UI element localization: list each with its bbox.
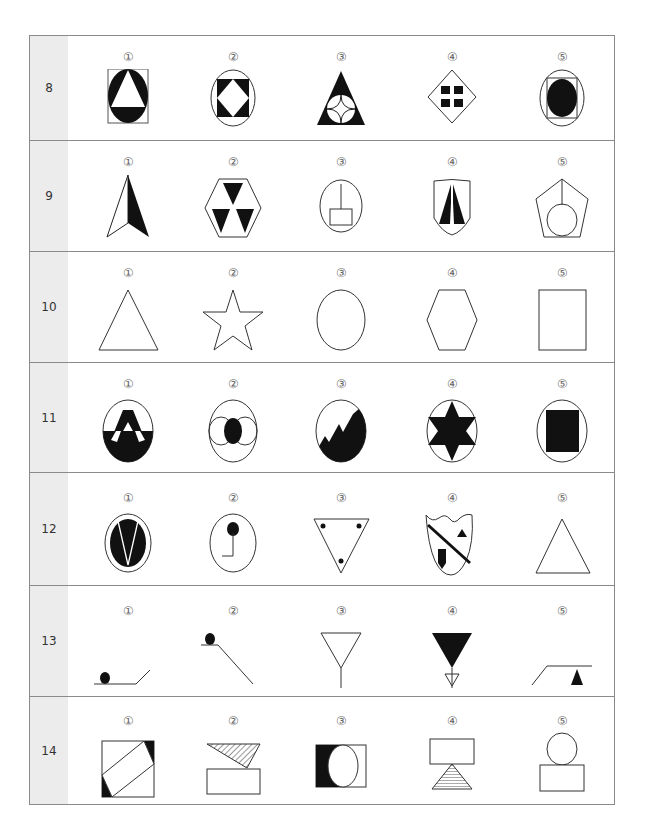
option-1[interactable]: ①	[78, 697, 178, 804]
hexagon-with-three-triangles-icon	[183, 177, 283, 239]
option-3[interactable]: ③	[291, 252, 391, 362]
option-marker: ③	[291, 604, 391, 618]
question-number: 14	[30, 697, 68, 804]
option-2[interactable]: ②	[183, 473, 283, 585]
option-marker: ③	[291, 714, 391, 728]
option-2[interactable]: ②	[183, 586, 283, 696]
option-4[interactable]: ④	[402, 586, 502, 696]
option-5[interactable]: ⑤	[512, 697, 612, 804]
inverted-triangle-three-dots-icon	[291, 517, 391, 575]
question-number: 8	[30, 36, 68, 140]
question-number: 12	[30, 473, 68, 585]
option-marker: ④	[402, 266, 502, 280]
option-1[interactable]: ①	[78, 586, 178, 696]
option-4[interactable]: ④	[402, 36, 502, 140]
option-marker: ①	[78, 266, 178, 280]
question-row-8: 8 ① ② ③ ④ ⑤	[30, 36, 614, 140]
option-5[interactable]: ⑤	[512, 363, 612, 472]
option-4[interactable]: ④	[402, 363, 502, 472]
option-2[interactable]: ②	[183, 141, 283, 251]
shield-with-black-spikes-icon	[402, 178, 502, 236]
option-marker: ⑤	[512, 266, 612, 280]
black-triangle-with-star-circle-icon	[291, 69, 391, 127]
option-marker: ③	[291, 50, 391, 64]
option-5[interactable]: ⑤	[512, 141, 612, 251]
option-marker: ①	[78, 491, 178, 505]
pentagon-with-circle-icon	[512, 177, 612, 239]
question-row-9: 9 ① ② ③ ④ ⑤	[30, 140, 614, 251]
option-2[interactable]: ②	[183, 36, 283, 140]
option-3[interactable]: ③	[291, 473, 391, 585]
option-1[interactable]: ①	[78, 141, 178, 251]
option-marker: ②	[183, 604, 283, 618]
option-2[interactable]: ②	[183, 252, 283, 362]
black-circle-with-v-icon	[78, 513, 178, 573]
circle-with-overlapping-circles-icon	[183, 398, 283, 464]
option-4[interactable]: ④	[402, 141, 502, 251]
star-icon	[183, 288, 283, 352]
question-number: 9	[30, 141, 68, 251]
option-marker: ④	[402, 50, 502, 64]
option-1[interactable]: ①	[78, 36, 178, 140]
square-with-rotated-rectangle-icon	[78, 739, 178, 799]
question-row-11: 11 ① ② ③ ④ ⑤	[30, 362, 614, 472]
option-1[interactable]: ①	[78, 252, 178, 362]
question-row-13: 13 ① ② ③ ④ ⑤	[30, 585, 614, 696]
option-marker: ③	[291, 155, 391, 169]
option-marker: ⑤	[512, 491, 612, 505]
circle-with-black-square-icon	[512, 398, 612, 464]
option-marker: ②	[183, 491, 283, 505]
option-4[interactable]: ④	[402, 252, 502, 362]
option-marker: ④	[402, 491, 502, 505]
circle-with-six-point-star-icon	[402, 398, 502, 464]
option-2[interactable]: ②	[183, 697, 283, 804]
option-3[interactable]: ③	[291, 36, 391, 140]
question-row-12: 12 ① ② ③ ④ ⑤	[30, 472, 614, 585]
black-triangle-over-small-triangle-icon	[402, 626, 502, 688]
option-5[interactable]: ⑤	[512, 252, 612, 362]
circle-with-black-mountain-icon	[291, 398, 391, 464]
option-marker: ②	[183, 714, 283, 728]
option-3[interactable]: ③	[291, 697, 391, 804]
ball-on-ledge-down-slope-icon	[183, 626, 283, 688]
option-marker: ①	[78, 50, 178, 64]
option-marker: ②	[183, 377, 283, 391]
option-1[interactable]: ①	[78, 363, 178, 472]
figure-options-table: 8 ① ② ③ ④ ⑤ 9 ① ② ③ ④ ⑤ 10 ① ② ③	[29, 35, 615, 805]
option-5[interactable]: ⑤	[512, 586, 612, 696]
option-3[interactable]: ③	[291, 363, 391, 472]
option-marker: ④	[402, 155, 502, 169]
option-marker: ⑤	[512, 155, 612, 169]
option-1[interactable]: ①	[78, 473, 178, 585]
option-3[interactable]: ③	[291, 141, 391, 251]
option-marker: ⑤	[512, 714, 612, 728]
half-black-arrowhead-icon	[78, 173, 178, 241]
option-4[interactable]: ④	[402, 697, 502, 804]
black-circle-in-square-in-circle-icon	[512, 69, 612, 127]
circle-letter-a-half-black-icon	[78, 398, 178, 464]
option-marker: ②	[183, 266, 283, 280]
option-3[interactable]: ③	[291, 586, 391, 696]
square-in-circle-with-diamond-icon	[183, 69, 283, 127]
hatched-triangle-over-rectangle-icon	[183, 739, 283, 799]
option-marker: ⑤	[512, 50, 612, 64]
question-number: 13	[30, 586, 68, 696]
circle-on-rectangle-icon	[512, 732, 612, 800]
option-5[interactable]: ⑤	[512, 36, 612, 140]
ball-on-flat-then-slope-icon	[78, 626, 178, 688]
slope-with-black-triangle-icon	[512, 626, 612, 688]
question-number: 11	[30, 363, 68, 472]
option-marker: ④	[402, 377, 502, 391]
option-marker: ③	[291, 377, 391, 391]
option-marker: ②	[183, 155, 283, 169]
option-marker: ④	[402, 714, 502, 728]
shield-with-diagonal-bar-icon	[402, 513, 502, 577]
option-marker: ②	[183, 50, 283, 64]
option-4[interactable]: ④	[402, 473, 502, 585]
option-5[interactable]: ⑤	[512, 473, 612, 585]
triangle-icon	[78, 288, 178, 352]
rectangle-on-hatched-triangle-icon	[402, 735, 502, 797]
question-row-10: 10 ① ② ③ ④ ⑤	[30, 251, 614, 362]
option-2[interactable]: ②	[183, 363, 283, 472]
rectangle-with-circle-black-left-icon	[291, 739, 391, 799]
